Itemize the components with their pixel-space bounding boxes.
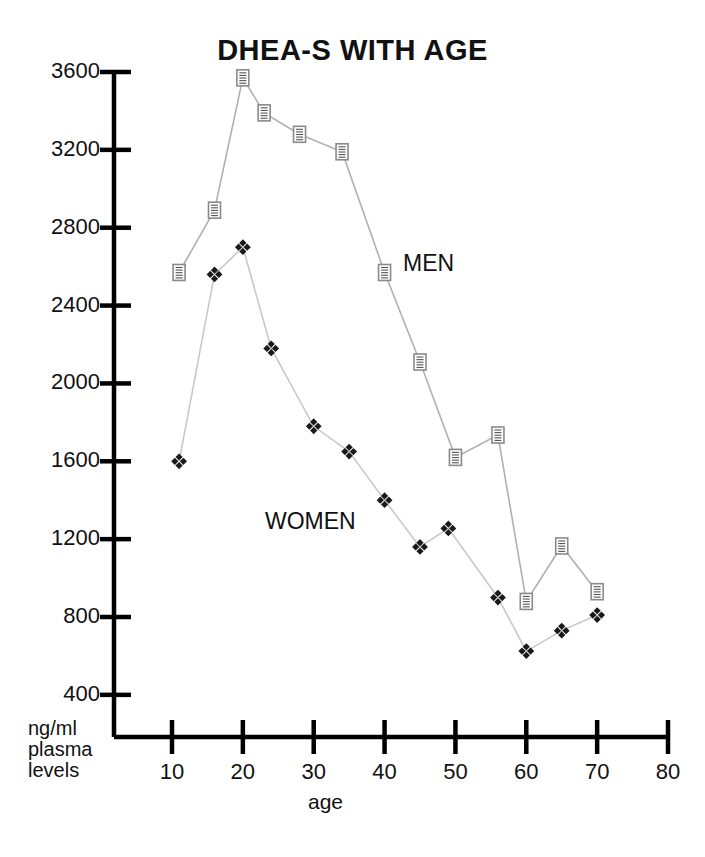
data-point-marker-men	[492, 427, 504, 443]
y-axis-tick-label: 1200	[28, 525, 100, 551]
data-point-marker-women	[589, 607, 605, 623]
y-axis-tick-label: 2000	[28, 369, 100, 395]
data-point-marker-men	[520, 593, 532, 609]
y-axis-tick-label: 2400	[28, 292, 100, 318]
data-point-marker-men	[336, 144, 348, 160]
chart-container: DHEA-S WITH AGE 400800120016002000240028…	[0, 0, 705, 857]
y-axis-tick-label: 1600	[28, 447, 100, 473]
data-point-marker-men	[449, 449, 461, 465]
x-axis-tick-label: 40	[360, 759, 410, 785]
data-point-marker-men	[414, 354, 426, 370]
x-axis-tick-label: 10	[147, 759, 197, 785]
series-label-women: WOMEN	[265, 508, 356, 535]
data-point-marker-men	[237, 70, 249, 86]
y-axis-title: ng/ml plasma levels	[28, 718, 106, 781]
y-axis-title-line-1: ng/ml	[28, 718, 106, 739]
x-axis-title: age	[308, 790, 343, 814]
data-series-group	[171, 70, 605, 659]
y-axis-tick-label: 2800	[28, 214, 100, 240]
series-line-women	[179, 247, 597, 651]
data-point-marker-men	[294, 126, 306, 142]
y-axis-title-line-2: plasma	[28, 739, 106, 760]
axes-group	[100, 72, 668, 754]
y-axis-tick-label: 3600	[28, 58, 100, 84]
data-point-marker-men	[556, 538, 568, 554]
data-point-marker-men	[591, 584, 603, 600]
series-line-men	[179, 78, 597, 602]
x-axis-tick-label: 30	[289, 759, 339, 785]
x-axis-tick-label: 80	[643, 759, 693, 785]
data-point-marker-men	[258, 105, 270, 121]
x-axis-tick-label: 70	[572, 759, 622, 785]
y-axis-tick-label: 400	[28, 681, 100, 707]
x-axis-tick-label: 50	[430, 759, 480, 785]
series-label-men: MEN	[403, 250, 454, 277]
series-women	[171, 239, 605, 659]
data-point-marker-men	[379, 264, 391, 280]
y-axis-tick-label: 800	[28, 603, 100, 629]
x-axis-tick-label: 60	[501, 759, 551, 785]
y-axis-tick-label: 3200	[28, 136, 100, 162]
data-point-marker-men	[173, 264, 185, 280]
data-point-marker-men	[209, 202, 221, 218]
x-axis-tick-label: 20	[218, 759, 268, 785]
y-axis-title-line-3: levels	[28, 760, 106, 781]
series-men	[173, 70, 603, 610]
